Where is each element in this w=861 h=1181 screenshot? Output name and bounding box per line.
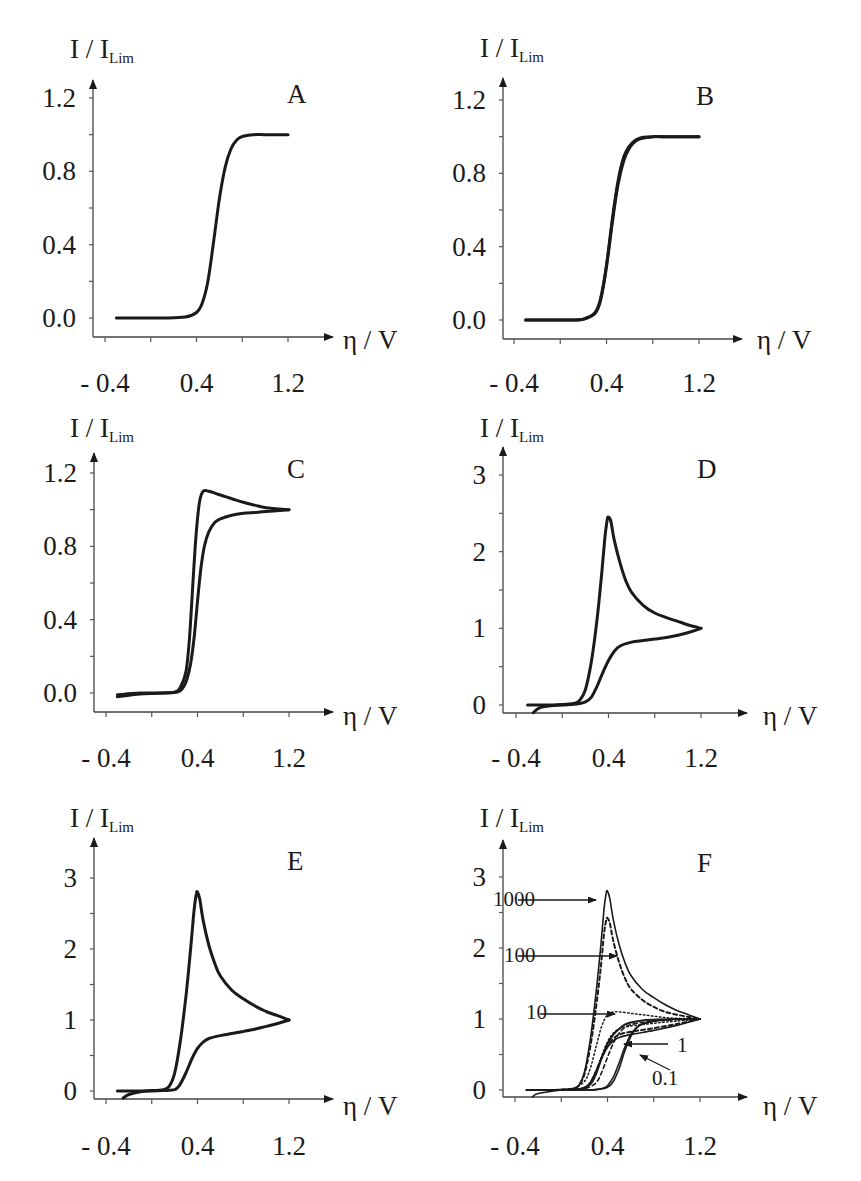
curve-1000-forward	[527, 890, 700, 1090]
y-tick-label: 3	[473, 460, 487, 490]
x-tick-label: - 0.4	[81, 1131, 131, 1161]
y-axis-title: I / ILim	[480, 33, 544, 65]
y-tick-label: 3	[473, 862, 487, 892]
y-tick-label: 1	[473, 613, 487, 643]
x-tick-label: 1.2	[271, 368, 305, 398]
y-tick-label: 0	[473, 690, 487, 720]
y-tick-label: 1.2	[452, 85, 486, 115]
y-tick-label: 0.8	[42, 156, 76, 186]
scan-rate-label: 1000	[493, 887, 535, 911]
x-tick-label: - 0.4	[80, 368, 130, 398]
curve-reverse	[526, 137, 699, 320]
scan-rate-label: 0.1	[652, 1066, 678, 1090]
x-tick-label: 0.4	[181, 1131, 215, 1161]
scan-rate-label: 10	[526, 1000, 547, 1024]
x-tick-label: 1.2	[272, 743, 306, 773]
scan-rate-label: 1	[677, 1033, 688, 1057]
y-tick-label: 1	[64, 1005, 78, 1035]
x-tick-label: 0.4	[591, 1131, 625, 1161]
curve-forward-scan	[117, 490, 289, 694]
y-tick-label: 3	[64, 863, 78, 893]
y-tick-label: 0	[64, 1076, 78, 1106]
panel-b: - 0.40.41.20.00.40.81.2I / ILimη / VB	[452, 33, 812, 398]
y-tick-label: 0.4	[43, 605, 77, 635]
x-tick-label: 0.4	[592, 743, 626, 773]
panel-letter: E	[287, 846, 304, 876]
x-tick-label: - 0.4	[489, 368, 539, 398]
x-axis-title: η / V	[343, 1091, 398, 1121]
panel-c: - 0.40.41.20.00.40.81.2I / ILimη / VC	[43, 413, 398, 773]
panel-f: - 0.40.41.20123I / ILimη / VF10001001010…	[473, 803, 819, 1161]
y-tick-label: 2	[473, 537, 487, 567]
curve-reverse-scan	[533, 628, 701, 712]
x-tick-label: 1.2	[682, 368, 716, 398]
y-tick-label: 1.2	[42, 83, 76, 113]
panel-d: - 0.40.41.20123I / ILimη / VD	[473, 413, 819, 773]
x-axis-title: η / V	[763, 701, 818, 731]
scan-rate-label: 100	[504, 943, 536, 967]
y-tick-label: 0.8	[43, 531, 77, 561]
y-tick-label: 0.0	[42, 303, 76, 333]
curve-forward-scan	[528, 517, 701, 705]
x-tick-label: 1.2	[684, 743, 718, 773]
panels-group: - 0.40.41.20.00.40.81.2I / ILimη / VA- 0…	[42, 33, 818, 1161]
x-axis-title: η / V	[763, 1091, 818, 1121]
figure-canvas: - 0.40.41.20.00.40.81.2I / ILimη / VA- 0…	[0, 0, 861, 1181]
y-axis-title: I / ILim	[70, 803, 134, 835]
x-axis-title: η / V	[757, 325, 812, 355]
y-tick-label: 1	[473, 1004, 487, 1034]
x-axis-title: η / V	[343, 701, 398, 731]
x-tick-label: 0.4	[180, 368, 214, 398]
panel-letter: A	[287, 79, 307, 109]
y-axis-title: I / ILim	[480, 413, 544, 445]
curve-reverse-scan	[123, 1020, 289, 1098]
curve-forward-scan	[117, 891, 289, 1091]
x-tick-label: - 0.4	[81, 743, 131, 773]
panel-letter: D	[697, 454, 717, 484]
panel-letter: B	[696, 81, 714, 111]
y-axis-title: I / ILim	[70, 413, 134, 445]
curve-reverse-scan	[117, 510, 289, 697]
y-tick-label: 0.4	[42, 230, 76, 260]
panel-e: - 0.40.41.20123I / ILimη / VE	[64, 803, 399, 1161]
x-tick-label: - 0.4	[491, 743, 541, 773]
x-tick-label: 0.4	[181, 743, 215, 773]
x-tick-label: 1.2	[683, 1131, 717, 1161]
curve-100-forward	[527, 918, 700, 1090]
y-tick-label: 2	[64, 934, 78, 964]
panel-a: - 0.40.41.20.00.40.81.2I / ILimη / VA	[42, 34, 398, 398]
x-tick-label: - 0.4	[490, 1131, 540, 1161]
x-tick-label: 0.4	[590, 368, 624, 398]
y-axis-title: I / ILim	[480, 803, 544, 835]
y-tick-label: 0.0	[43, 678, 77, 708]
y-tick-label: 2	[473, 933, 487, 963]
y-tick-label: 0.8	[452, 158, 486, 188]
y-tick-label: 0	[473, 1075, 487, 1105]
y-tick-label: 0.4	[452, 232, 486, 262]
panel-letter: F	[697, 848, 712, 878]
x-tick-label: 1.2	[272, 1131, 306, 1161]
x-axis-title: η / V	[343, 325, 398, 355]
panel-letter: C	[287, 454, 305, 484]
y-axis-title: I / ILim	[70, 34, 134, 66]
y-tick-label: 1.2	[43, 458, 77, 488]
y-tick-label: 0.0	[452, 305, 486, 335]
curve-sigmoid	[116, 135, 288, 319]
